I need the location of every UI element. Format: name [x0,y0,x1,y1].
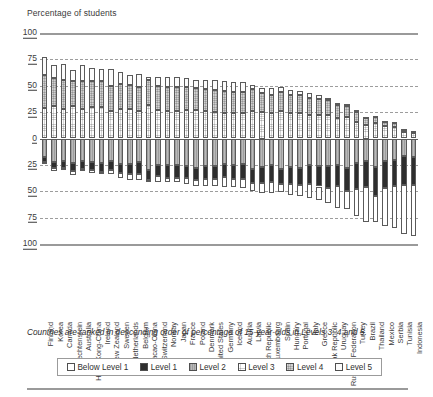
bar-column [240,33,245,244]
plot-area: 1007550250255075100 [40,33,418,244]
bar-segment [61,109,66,139]
bar-segment [108,111,113,138]
legend-item[interactable]: Level 3 [238,363,275,372]
bar-column [193,33,198,244]
y-tick-label: 100 [23,239,37,250]
bar-column [401,33,406,244]
legend-item[interactable]: Level 5 [335,363,372,372]
bar-segment [288,113,293,139]
bar-segment [411,131,416,133]
y-tick-label: 75 [28,212,37,223]
bar-segment [382,161,387,187]
bar-segment [307,165,312,184]
bar-segment [222,113,227,139]
bar-segment [307,93,312,98]
bar-segment [174,178,179,183]
bar-segment [108,139,113,161]
bar-segment [212,112,217,139]
legend-label: Level 1 [151,363,177,372]
bar-segment [250,183,255,191]
bar-segment [392,186,397,228]
bar-segment [51,78,56,106]
bar-column [278,33,283,244]
bar-column [146,33,151,244]
bar-segment [231,82,236,92]
bar-segment [184,178,189,184]
bar-segment [42,75,47,108]
bar-segment [61,161,66,168]
bar-segment [240,164,245,178]
bar-segment [250,139,255,169]
bar-segment [127,85,132,109]
swatch-below-level-1 [67,363,75,371]
bar-column [136,33,141,244]
bar-column [344,33,349,244]
bar-column [307,33,312,244]
swatch-level-2 [189,363,197,371]
bar-segment [89,170,94,173]
bar-segment [373,139,378,167]
bar-segment [250,85,255,89]
bar-column [382,33,387,244]
bar-segment [278,87,283,92]
bar-segment [325,139,330,167]
bar-segment [61,80,66,109]
bar-column [184,33,189,244]
bar-segment [99,139,104,163]
bar-segment [401,132,406,139]
bar-segment [269,165,274,181]
bar-column [80,33,85,244]
bar-segment [174,77,179,87]
swatch-level-3 [238,363,246,371]
bar-segment [136,87,141,111]
y-tick-label: 50 [28,81,37,92]
bar-segment [392,139,397,161]
bar-segment [174,111,179,139]
bar-segment [51,139,56,162]
bar-segment [174,87,179,110]
bar-segment [212,166,217,179]
bar-segment [184,139,189,166]
bar-segment [99,172,104,175]
bar-segment [259,112,264,138]
bar-segment [165,139,170,166]
bar-column [316,33,321,244]
legend-item[interactable]: Level 2 [189,363,226,372]
bar-series-container [40,33,418,244]
bar-segment [146,139,151,171]
legend-label: Below Level 1 [77,363,128,372]
category-axis-labels: FinlandKoreaCanadaLiechtensteinAustralia… [40,246,418,324]
bar-column [297,33,302,244]
bar-segment [316,115,321,138]
bar-segment [222,164,227,178]
bar-segment [51,168,56,170]
legend-item[interactable]: Level 4 [286,363,323,372]
bar-segment [51,162,56,169]
bar-segment [193,80,198,87]
bar-segment [231,165,236,179]
legend-item[interactable]: Level 1 [140,363,177,372]
bar-segment [382,188,387,227]
bar-segment [325,115,330,139]
bar-segment [269,113,274,138]
bar-column [70,33,75,244]
bar-segment [269,139,274,166]
bar-segment [155,77,160,87]
bar-segment [51,106,56,139]
legend-label: Level 5 [346,363,372,372]
bar-segment [278,169,283,184]
footnote: Countries are ranked in descending order… [27,327,407,338]
bar-segment [70,171,75,175]
legend-item[interactable]: Below Level 1 [67,363,128,372]
bar-segment [108,161,113,170]
bar-segment [61,64,66,80]
bar-segment [165,87,170,111]
bar-segment [42,139,47,157]
bar-segment [222,177,227,186]
bar-segment [80,109,85,139]
chart-legend: Below Level 1Level 1Level 2Level 3Level … [57,358,382,376]
bar-segment [297,185,302,196]
bar-segment [344,191,349,210]
bar-segment [193,110,198,138]
bar-segment [240,179,245,188]
